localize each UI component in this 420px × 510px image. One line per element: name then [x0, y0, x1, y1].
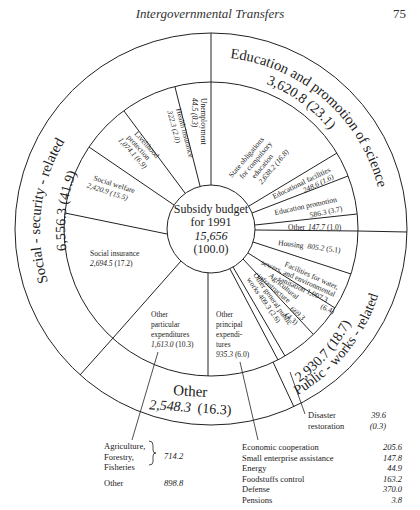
- category-other-name: Other: [173, 382, 208, 400]
- table-row: Energy44.9: [242, 463, 402, 474]
- label-education-other: Other147.7(1.0): [288, 223, 342, 232]
- center-pct: (100.0): [194, 242, 229, 256]
- other-value: 898.8: [154, 478, 183, 489]
- center-year: for 1991: [191, 215, 232, 229]
- table-row: Small enterprise assistance147.8: [242, 453, 402, 464]
- category-social-value: 6,556.3 (41.9): [53, 168, 80, 252]
- disaster-restoration-note: Disaster39.6 restoration(0.3): [308, 410, 386, 431]
- leader-lines: [132, 352, 305, 440]
- svg-text:Other147.7(1.0): Other147.7(1.0): [288, 223, 342, 232]
- table-row: Pensions3.8: [242, 495, 402, 506]
- other-principal-breakdown: Economic cooperation205.6 Small enterpri…: [242, 442, 402, 505]
- leader-other-particular: [132, 352, 158, 440]
- svg-text:Unemployment: Unemployment: [199, 98, 208, 146]
- svg-text:tures: tures: [216, 340, 231, 349]
- svg-text:principal: principal: [216, 320, 243, 329]
- svg-text:Housing805.2(5.1): Housing805.2(5.1): [278, 238, 342, 255]
- center-title: Subsidy budget: [174, 202, 249, 216]
- table-row: Defense370.0: [242, 484, 402, 495]
- label-unemployment: Unemployment 44.5 (0.3): [190, 98, 208, 146]
- svg-text:Social insurance: Social insurance: [90, 249, 140, 258]
- svg-text:expendi-: expendi-: [216, 330, 243, 339]
- table-row: Foodstuffs control163.2: [242, 474, 402, 485]
- label-other-principal: Other principal expendi- tures 935.3(6.0…: [216, 310, 250, 359]
- svg-text:1,613.0(10.3): 1,613.0(10.3): [151, 340, 194, 349]
- svg-text:(6.4): (6.4): [319, 302, 336, 316]
- other-particular-breakdown: Agriculture, Forestry, Fisheries 714.2 O…: [104, 441, 183, 488]
- leader-other-principal: [240, 362, 258, 440]
- svg-text:935.3(6.0): 935.3(6.0): [216, 350, 250, 359]
- center-label: Subsidy budget for 1991 15,656 (100.0): [174, 202, 249, 256]
- svg-text:particular: particular: [151, 320, 180, 329]
- center-total: 15,656: [195, 229, 228, 243]
- table-row: Economic cooperation205.6: [242, 442, 402, 453]
- svg-text:expenditures: expenditures: [151, 330, 189, 339]
- svg-text:2,548.3 (16.3): 2,548.3 (16.3): [149, 397, 233, 419]
- category-other: Other 2,548.3 (16.3): [149, 382, 233, 419]
- label-social-insurance: Social insurance 2,694.5(17.2): [90, 249, 140, 268]
- subsidy-pie-chart: Subsidy budget for 1991 15,656 (100.0) E…: [0, 0, 420, 510]
- svg-text:Other: Other: [216, 310, 234, 319]
- svg-text:Other: Other: [151, 310, 169, 319]
- label-social-welfare: Social welfare 2,420.9 (15.5): [86, 172, 137, 204]
- svg-text:2,694.5(17.2): 2,694.5(17.2): [90, 259, 133, 268]
- category-other-pct: (16.3): [197, 401, 232, 419]
- agri-value: 714.2: [154, 441, 183, 473]
- label-livelihood-protection: Livelihood protection 1,074.1 (6.9): [117, 125, 162, 171]
- label-housing: Housing805.2(5.1): [278, 238, 342, 255]
- category-other-value: 2,548.3: [149, 397, 192, 415]
- other-label: Other: [104, 478, 154, 489]
- label-other-particular: Other particular expenditures 1,613.0(10…: [151, 310, 194, 349]
- svg-text:44.5 (0.3): 44.5 (0.3): [190, 98, 199, 128]
